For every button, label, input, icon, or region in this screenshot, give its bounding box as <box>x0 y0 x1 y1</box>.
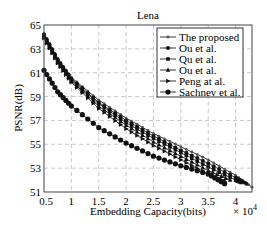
x-tick-label: 1 <box>69 195 75 207</box>
x-axis-label: Embedding Capacity(bits) <box>90 205 206 218</box>
y-axis-ticks: 5153555759616365 <box>30 19 42 198</box>
y-axis-label: PSNR(dB) <box>12 84 25 132</box>
legend: The proposedOu et al.Qu et al.Ou et al.P… <box>157 28 243 98</box>
y-tick-label: 55 <box>30 138 42 150</box>
psnr-chart: Lena 0.511.522.533.54 5153555759616365 E… <box>0 0 267 236</box>
y-tick-label: 51 <box>30 186 41 198</box>
y-tick-label: 63 <box>30 43 42 55</box>
legend-label: Sachnev et al. <box>179 86 241 98</box>
y-tick-label: 65 <box>30 19 42 31</box>
y-tick-label: 57 <box>30 114 42 126</box>
y-tick-label: 53 <box>30 162 42 174</box>
y-tick-label: 59 <box>30 91 42 103</box>
x-multiplier-label: × 104 <box>233 203 257 217</box>
x-tick-label: 0.5 <box>39 195 53 207</box>
y-tick-label: 61 <box>30 67 41 79</box>
chart-title: Lena <box>137 9 159 21</box>
